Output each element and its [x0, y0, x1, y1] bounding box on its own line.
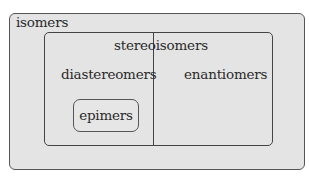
stereoisomers-label: stereoisomers — [114, 39, 208, 53]
enantiomers-label: enantiomers — [184, 68, 267, 82]
epimers-set-box: epimers — [73, 99, 139, 132]
isomers-label: isomers — [16, 16, 68, 30]
epimers-label: epimers — [74, 109, 138, 123]
diastereomers-label: diastereomers — [61, 68, 157, 82]
